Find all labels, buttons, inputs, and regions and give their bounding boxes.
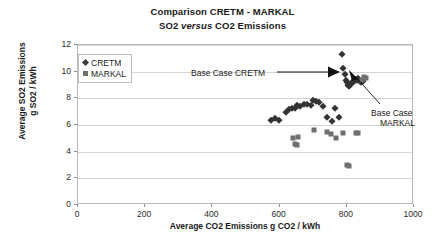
data-point-markal (328, 132, 333, 137)
data-point-markal (296, 135, 301, 140)
x-tick-mark (413, 204, 414, 207)
data-point-cretm (276, 116, 282, 122)
data-point-markal (334, 136, 339, 141)
x-tick-label: 400 (194, 209, 228, 219)
chart-title-block: Comparison CRETM - MARKAL SO2 versus CO2… (0, 5, 445, 33)
gridline-y (78, 178, 412, 179)
x-tick-label: 0 (60, 209, 94, 219)
y-tick-mark (74, 124, 77, 125)
data-point-cretm (332, 104, 338, 110)
data-point-markal (355, 131, 360, 136)
chart-subtitle-pre: SO2 (159, 20, 181, 31)
data-point-markal (364, 76, 369, 81)
annotation-markal-line2: MARKAL (371, 118, 415, 128)
y-tick-mark (74, 71, 77, 72)
annotation-base-case-cretm: Base Case CRETM (191, 68, 265, 78)
y-tick-label: 2 (45, 172, 71, 182)
legend-label-cretm: CRETM (91, 58, 121, 68)
y-axis-title-line2: g SO2 / kWh (28, 11, 39, 171)
y-tick-label: 6 (45, 119, 71, 129)
x-tick-label: 1000 (396, 209, 430, 219)
gridline-y (78, 152, 412, 153)
y-tick-mark (74, 151, 77, 152)
annotation-markal-line1: Base Case (371, 108, 415, 118)
x-tick-mark (279, 204, 280, 207)
diamond-marker-icon (82, 59, 89, 66)
data-point-markal (294, 143, 299, 148)
x-tick-label: 600 (262, 209, 296, 219)
data-point-markal (341, 131, 346, 136)
y-tick-label: 0 (45, 199, 71, 209)
y-tick-mark (74, 97, 77, 98)
data-point-cretm (339, 51, 345, 57)
data-point-cretm (328, 118, 334, 124)
y-tick-label: 4 (45, 146, 71, 156)
scatter-chart: Comparison CRETM - MARKAL SO2 versus CO2… (0, 0, 445, 241)
legend-label-markal: MARKAL (91, 69, 126, 79)
x-axis-title: Average CO2 Emissions g CO2 / kWh (77, 221, 413, 231)
y-axis-title: Average SO2 Emissions g SO2 / kWh (17, 11, 39, 171)
chart-legend: CRETM MARKAL (78, 54, 132, 83)
chart-subtitle-italic: versus (181, 20, 212, 31)
annotation-base-case-markal: Base Case MARKAL (371, 108, 415, 128)
chart-subtitle: SO2 versus CO2 Emissions (0, 19, 445, 33)
data-point-cretm (336, 114, 342, 120)
x-tick-label: 200 (127, 209, 161, 219)
legend-item-cretm: CRETM (82, 57, 126, 68)
x-tick-mark (77, 204, 78, 207)
x-tick-mark (211, 204, 212, 207)
y-tick-label: 10 (45, 66, 71, 76)
data-point-markal (312, 128, 317, 133)
x-tick-mark (346, 204, 347, 207)
gridline-y (78, 125, 412, 126)
x-tick-mark (144, 204, 145, 207)
x-tick-label: 800 (329, 209, 363, 219)
y-tick-label: 8 (45, 92, 71, 102)
y-tick-mark (74, 44, 77, 45)
legend-item-markal: MARKAL (82, 68, 126, 79)
gridline-y (78, 45, 412, 46)
data-point-markal (346, 164, 351, 169)
square-marker-icon (83, 71, 88, 76)
data-point-cretm (319, 103, 325, 109)
y-tick-mark (74, 177, 77, 178)
gridline-y (78, 98, 412, 99)
y-axis-title-line1: Average SO2 Emissions (17, 11, 28, 171)
chart-subtitle-post: CO2 Emissions (212, 20, 286, 31)
data-point-cretm (340, 64, 346, 70)
y-tick-label: 12 (45, 39, 71, 49)
chart-title: Comparison CRETM - MARKAL (0, 5, 445, 19)
